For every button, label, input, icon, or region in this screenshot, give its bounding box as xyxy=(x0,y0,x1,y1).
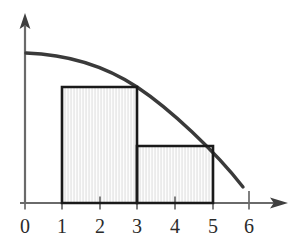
x-tick-label-2: 2 xyxy=(88,216,112,236)
x-tick-label-0: 0 xyxy=(13,216,37,236)
x-tick-label-1: 1 xyxy=(50,216,74,236)
rectangle-1-fill xyxy=(62,87,137,203)
x-tick-label-3: 3 xyxy=(125,216,149,236)
figure-container: 0 1 2 3 4 5 6 xyxy=(0,0,298,246)
rectangle-2-fill xyxy=(137,146,213,203)
plot-canvas xyxy=(0,0,298,246)
x-tick-label-5: 5 xyxy=(201,216,225,236)
x-tick-label-6: 6 xyxy=(237,216,261,236)
x-tick-label-4: 4 xyxy=(163,216,187,236)
